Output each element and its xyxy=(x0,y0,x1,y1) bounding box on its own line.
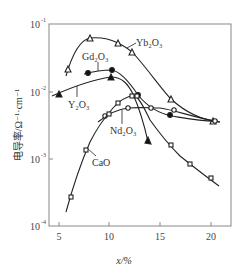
svg-text:10: 10 xyxy=(30,19,40,30)
series-cao xyxy=(66,94,219,212)
svg-text:Nd₂O₃: Nd₂O₃ xyxy=(110,125,136,136)
series-yb2o3 xyxy=(65,35,220,124)
svg-text:-1: -1 xyxy=(41,17,46,23)
series-gd2o3 xyxy=(84,68,218,122)
y-tick-1e-1: 10 -1 xyxy=(30,17,46,30)
svg-text:-4: -4 xyxy=(41,219,46,225)
conductivity-chart: 5 10 15 20 10 -1 10 -2 10 -3 10 -4 x/% 电… xyxy=(0,0,248,271)
y-tick-1e-2: 10 -2 xyxy=(30,85,46,98)
label-y2o3: Y₂O₃ xyxy=(68,86,89,110)
x-tick-5: 5 xyxy=(57,231,62,242)
x-axis xyxy=(59,222,211,226)
x-tick-10: 10 xyxy=(104,231,114,242)
y-axis xyxy=(49,92,53,159)
label-cao: CaO xyxy=(88,149,110,168)
y-tick-1e-3: 10 -3 xyxy=(30,152,46,165)
x-tick-20: 20 xyxy=(206,231,216,242)
label-gd2o3: Gd₂O₃ xyxy=(82,51,108,71)
svg-text:10: 10 xyxy=(30,154,40,165)
svg-text:-2: -2 xyxy=(41,85,46,91)
label-yb2o3: Yb₂O₃ xyxy=(127,37,162,48)
svg-text:Y₂O₃: Y₂O₃ xyxy=(68,99,89,110)
svg-text:CaO: CaO xyxy=(92,157,110,168)
svg-text:10: 10 xyxy=(30,221,40,232)
svg-text:10: 10 xyxy=(30,87,40,98)
svg-text:Yb₂O₃: Yb₂O₃ xyxy=(136,37,162,48)
x-axis-title: x/% xyxy=(115,255,132,266)
x-tick-15: 15 xyxy=(155,231,165,242)
svg-text:Gd₂O₃: Gd₂O₃ xyxy=(82,51,108,62)
y-axis-title: 电导率/Ω⁻¹·cm⁻¹ xyxy=(12,89,24,161)
label-nd2o3: Nd₂O₃ xyxy=(110,110,136,136)
plot-frame xyxy=(49,24,231,226)
y-tick-1e-4: 10 -4 xyxy=(30,219,46,232)
svg-text:-3: -3 xyxy=(41,152,46,158)
